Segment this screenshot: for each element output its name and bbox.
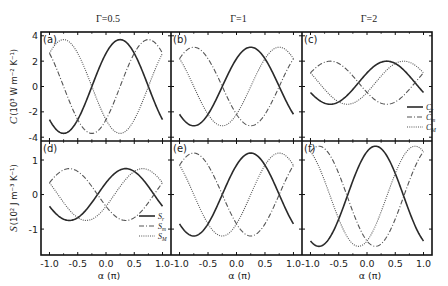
panel-label: (f): [304, 143, 315, 154]
x-axis-labels: α (π)α (π)α (π): [98, 270, 381, 281]
x-axis-label: α (π): [228, 270, 250, 281]
column-title: Γ=2: [361, 13, 377, 24]
panel-label: (b): [173, 34, 187, 45]
panel-e: (e)-1.0-0.50.00.51.0: [170, 141, 302, 269]
panel-label: (e): [173, 143, 187, 154]
panel-label: (a): [43, 34, 57, 45]
y-axis-label: C(10³ W m⁻² K⁻¹): [7, 49, 19, 124]
legend: SrSmSM: [139, 212, 167, 242]
y-tick-label: -4: [29, 132, 38, 143]
y-axis-labels: C(10³ W m⁻² K⁻¹)S(10² J m⁻³ K⁻¹): [7, 49, 19, 232]
legend-entry: Sr: [158, 212, 165, 222]
legends: CrCmCMSrSmSM: [139, 103, 436, 242]
column-titles: Γ=0.5Γ=1Γ=2: [96, 13, 377, 24]
x-tick-label: -1.0: [40, 258, 59, 269]
column-title: Γ=1: [230, 13, 246, 24]
curve-c-m: [310, 61, 423, 104]
panel-label: (d): [43, 143, 57, 154]
legend-entry: Cm: [426, 113, 435, 123]
x-tick-label: -1.0: [170, 258, 189, 269]
legend-entry: Sm: [158, 222, 166, 232]
x-tick-label: 0.0: [98, 258, 113, 269]
curve-s-r: [310, 146, 423, 246]
x-tick-label: 1.0: [155, 258, 170, 269]
column-title: Γ=0.5: [96, 13, 120, 24]
curve-c-m: [310, 61, 423, 104]
legend: CrCmCM: [407, 103, 436, 133]
x-axis-label: α (π): [98, 270, 120, 281]
panel-a: (a)-4-2024: [29, 30, 171, 142]
curve-c-r: [310, 61, 423, 104]
curve-s-r: [49, 169, 162, 221]
x-tick-label: -0.5: [199, 258, 218, 269]
x-tick-label: 0.0: [229, 258, 244, 269]
panel-f: (f)-1.0-0.50.00.51.0: [301, 141, 432, 269]
y-tick-label: 0: [32, 189, 38, 200]
x-tick-label: 0.5: [127, 258, 142, 269]
legend-entry: CM: [426, 123, 436, 133]
x-tick-label: -1.0: [301, 258, 320, 269]
curve-s-m: [310, 146, 423, 246]
figure: Γ=0.5Γ=1Γ=2 (a)-4-2024(b)(c)(d)-101-1.0-…: [0, 0, 448, 286]
panel-b: (b): [171, 32, 302, 141]
curve-s-m: [49, 169, 162, 221]
x-tick-label: 0.5: [257, 258, 272, 269]
panels: (a)-4-2024(b)(c)(d)-101-1.0-0.50.00.51.0…: [29, 30, 432, 269]
x-tick-label: -0.5: [68, 258, 87, 269]
y-tick-label: 4: [32, 30, 38, 41]
y-axis-label: S(10² J m⁻³ K⁻¹): [7, 164, 19, 232]
x-tick-label: 0.5: [388, 258, 403, 269]
y-tick-label: 0: [32, 81, 38, 92]
panel-d: (d)-101-1.0-0.50.00.51.0: [29, 141, 171, 269]
y-tick-label: 1: [32, 155, 38, 166]
curve-s-m: [310, 146, 423, 246]
y-tick-label: 2: [32, 56, 38, 67]
panel-label: (c): [304, 34, 317, 45]
y-tick-label: -2: [29, 106, 38, 117]
y-tick-label: -1: [29, 224, 38, 235]
legend-entry: SM: [158, 232, 167, 242]
curve-s-m: [49, 169, 162, 221]
panel-c: (c): [302, 32, 432, 141]
x-axis-label: α (π): [359, 270, 381, 281]
x-tick-label: 0.0: [359, 258, 374, 269]
x-tick-label: 1.0: [286, 258, 301, 269]
x-tick-label: -0.5: [329, 258, 348, 269]
legend-entry: Cr: [426, 103, 434, 113]
x-tick-label: 1.0: [416, 258, 431, 269]
